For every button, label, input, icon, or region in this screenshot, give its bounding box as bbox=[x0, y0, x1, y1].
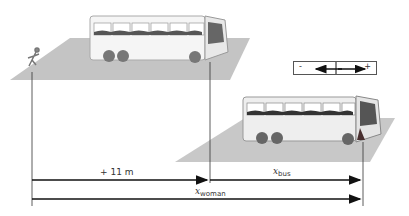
legend-minus: - bbox=[299, 62, 302, 71]
direction-legend: - + bbox=[293, 61, 377, 75]
legend-plus: + bbox=[364, 62, 371, 71]
bus-bottom-icon bbox=[243, 96, 381, 145]
label-offset: + 11 m bbox=[100, 167, 133, 177]
label-x-woman: xwoman bbox=[195, 186, 226, 198]
label-x-bus: xbus bbox=[273, 166, 291, 178]
bus-top-icon bbox=[90, 16, 228, 63]
diagram-canvas bbox=[0, 0, 409, 216]
